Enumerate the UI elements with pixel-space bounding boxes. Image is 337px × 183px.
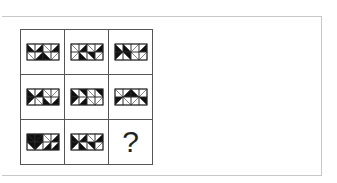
tile-r2c1 <box>21 75 65 120</box>
tile-pattern <box>70 133 104 151</box>
tile-pattern <box>114 88 148 106</box>
tile-r3c2 <box>65 120 109 164</box>
tile-r1c2 <box>65 30 109 75</box>
tile-r2c3 <box>109 75 152 120</box>
tile-pattern <box>70 43 104 61</box>
tile-r1c1 <box>21 30 65 75</box>
tile-pattern <box>26 43 60 61</box>
puzzle-grid: ? <box>20 29 153 165</box>
tile-pattern <box>26 88 60 106</box>
tile-r2c2 <box>65 75 109 120</box>
tile-r3c1 <box>21 120 65 164</box>
tile-pattern <box>70 88 104 106</box>
tile-pattern <box>114 43 148 61</box>
question-mark: ? <box>122 127 139 157</box>
missing-tile[interactable]: ? <box>109 120 152 164</box>
tile-pattern <box>26 133 60 151</box>
tile-r1c3 <box>109 30 152 75</box>
